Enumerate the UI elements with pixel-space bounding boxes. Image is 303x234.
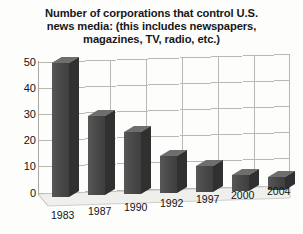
chart-title-line-3: magazines, TV, radio, etc.) <box>0 33 303 46</box>
chart-title-line-1: Number of corporations that control U.S. <box>0 7 303 20</box>
x-tick-2000: 2000 <box>231 189 254 201</box>
plot-area: 50 40 30 20 10 0 1983 1987 1990 1992 199… <box>0 48 303 234</box>
chart-title-line-2: news media: (this includes newspapers, <box>0 20 303 33</box>
x-tick-1987: 1987 <box>88 205 111 217</box>
x-tick-1997: 1997 <box>196 193 219 205</box>
chart-title: Number of corporations that control U.S.… <box>0 7 303 46</box>
x-tick-1992: 1992 <box>160 197 183 209</box>
x-tick-2004: 2004 <box>267 185 290 197</box>
x-axis-labels: 1983 1987 1990 1992 1997 2000 2004 <box>0 48 303 234</box>
x-tick-1990: 1990 <box>124 201 147 213</box>
x-tick-1983: 1983 <box>51 209 74 221</box>
chart-container: Number of corporations that control U.S.… <box>0 0 303 234</box>
